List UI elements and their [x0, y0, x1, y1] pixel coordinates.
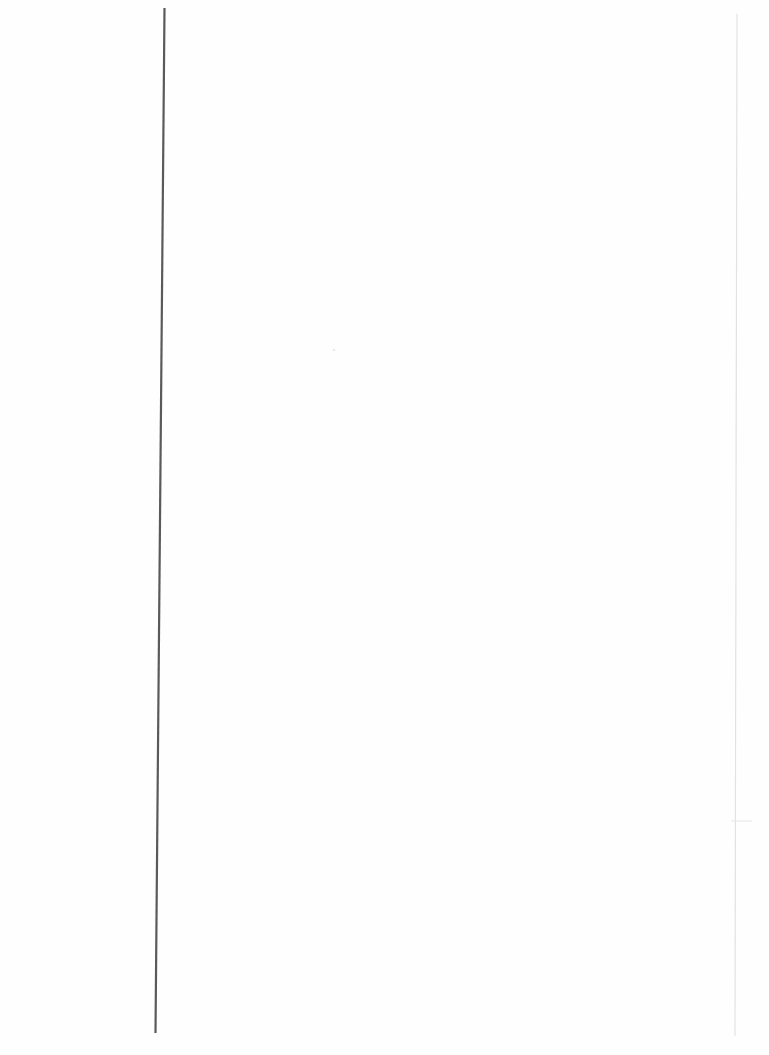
page-rules	[0, 0, 769, 1055]
right-margin-rule	[735, 14, 737, 1036]
scan-speck	[333, 349, 335, 351]
scanned-page	[0, 0, 769, 1055]
left-margin-rule	[156, 8, 165, 1033]
